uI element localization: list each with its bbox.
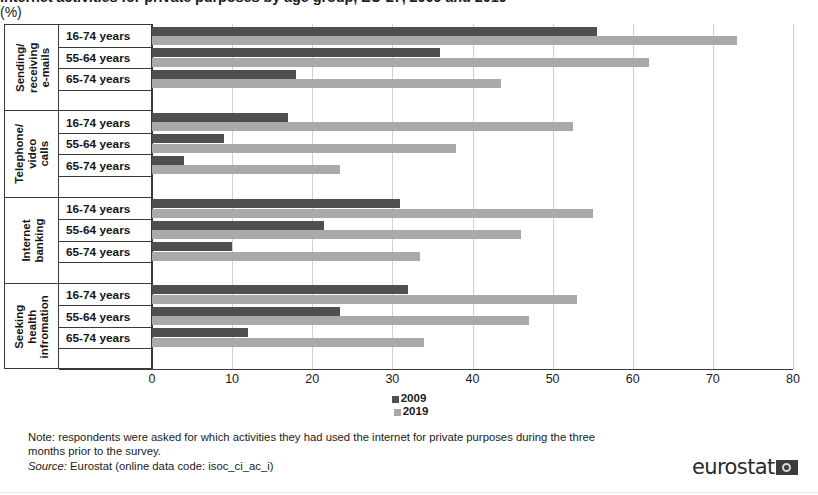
- note-line-1: Note: respondents were asked for which a…: [28, 431, 668, 445]
- legend-label-2009: 2009: [401, 392, 427, 404]
- row-label-16-74-years: 16-74 years: [59, 199, 152, 221]
- row-label-55-64-years: 55-64 years: [59, 220, 152, 242]
- title-unit: (%): [0, 5, 818, 20]
- bar-2019: [152, 58, 649, 67]
- bar-2009: [152, 328, 248, 337]
- group-label-text: Sending/receivinge-mails: [13, 42, 51, 93]
- row-label-55-64-years: 55-64 years: [59, 306, 152, 328]
- row-label-65-74-years: 65-74 years: [59, 155, 152, 177]
- legend-label-2019: 2019: [403, 405, 429, 417]
- bar-2019: [152, 165, 340, 174]
- group-separator: [59, 283, 152, 284]
- row-label-55-64-years: 55-64 years: [59, 134, 152, 156]
- x-axis-tick-labels: 01020304050607080: [0, 372, 818, 392]
- row-label-55-64-years: 55-64 years: [59, 48, 152, 70]
- chart-footnotes: Note: respondents were asked for which a…: [28, 431, 668, 474]
- bar-2019: [152, 122, 573, 131]
- group-label-text: Internetbanking: [20, 218, 45, 262]
- source-text: Eurostat (online data code: isoc_ci_ac_i…: [67, 460, 274, 472]
- bar-2009: [152, 48, 440, 57]
- chart-legend: 20092019: [0, 392, 818, 418]
- note-line-2: months prior to the survey.: [28, 445, 668, 459]
- x-tick-30: 30: [372, 372, 412, 386]
- eurostat-wordmark: eurostat: [692, 455, 775, 479]
- gridline-80: [793, 24, 794, 369]
- legend-item-2009[interactable]: 2009: [0, 392, 818, 405]
- gridline-70: [713, 24, 714, 369]
- row-label-65-74-years: 65-74 years: [59, 242, 152, 264]
- bar-2019: [152, 316, 529, 325]
- group-label-table: Sending/receivinge-mailsTelephone/videoc…: [4, 24, 58, 369]
- legend-item-2019[interactable]: 2019: [0, 405, 818, 418]
- bar-2009: [152, 156, 184, 165]
- gridline-60: [633, 24, 634, 369]
- bar-2009: [152, 113, 288, 122]
- bar-2019: [152, 144, 456, 153]
- bar-2009: [152, 27, 597, 36]
- chart-header: Internet activities for private purposes…: [0, 0, 818, 20]
- group-separator: [59, 197, 152, 198]
- plot-area: [152, 24, 793, 369]
- bar-2009: [152, 242, 232, 251]
- row-label-16-74-years: 16-74 years: [59, 112, 152, 134]
- page-title: Internet activities for private purposes…: [0, 0, 818, 4]
- source-label: Source:: [28, 460, 67, 472]
- x-tick-40: 40: [453, 372, 493, 386]
- bar-2009: [152, 285, 408, 294]
- page-bottom-edge: [0, 492, 818, 493]
- row-label-16-74-years: 16-74 years: [59, 285, 152, 307]
- x-tick-20: 20: [292, 372, 332, 386]
- bar-2019: [152, 252, 420, 261]
- chart-plot-region: Sending/receivinge-mailsTelephone/videoc…: [0, 24, 818, 369]
- source-line: Source: Eurostat (online data code: isoc…: [28, 459, 668, 474]
- group-label-cell: Seekinghealthinfromation: [5, 284, 59, 370]
- bar-2019: [152, 338, 424, 347]
- row-label-table: 16-74 years55-64 years65-74 years16-74 y…: [58, 24, 152, 369]
- group-label-cell: Sending/receivinge-mails: [5, 25, 59, 111]
- bar-2009: [152, 307, 340, 316]
- legend-swatch-2009: [392, 396, 399, 403]
- x-axis-line: [152, 369, 793, 370]
- x-tick-50: 50: [533, 372, 573, 386]
- bar-2009: [152, 134, 224, 143]
- bar-2019: [152, 295, 577, 304]
- x-tick-0: 0: [132, 372, 172, 386]
- x-tick-10: 10: [212, 372, 252, 386]
- row-label-65-74-years: 65-74 years: [59, 328, 152, 350]
- group-separator: [59, 369, 152, 370]
- bar-2009: [152, 221, 324, 230]
- x-tick-70: 70: [693, 372, 733, 386]
- bar-2009: [152, 199, 400, 208]
- gridline-50: [553, 24, 554, 369]
- bar-2009: [152, 70, 296, 79]
- bar-2019: [152, 79, 501, 88]
- bar-2019: [152, 209, 593, 218]
- group-label-text: Telephone/videocalls: [13, 124, 51, 184]
- group-label-text: Seekinghealthinfromation: [13, 295, 51, 358]
- group-separator: [59, 110, 152, 111]
- bar-2019: [152, 36, 737, 45]
- legend-swatch-2019: [394, 409, 401, 416]
- eurostat-emblem-icon: [776, 460, 798, 475]
- x-tick-60: 60: [613, 372, 653, 386]
- group-label-cell: Internetbanking: [5, 198, 59, 284]
- row-label-16-74-years: 16-74 years: [59, 26, 152, 48]
- x-tick-80: 80: [773, 372, 813, 386]
- bar-2019: [152, 230, 521, 239]
- eurostat-logo: eurostat: [692, 455, 798, 479]
- row-label-65-74-years: 65-74 years: [59, 69, 152, 91]
- group-label-cell: Telephone/videocalls: [5, 111, 59, 197]
